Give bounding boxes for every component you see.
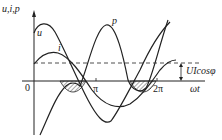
y-axis-label: u,i,p <box>2 4 20 14</box>
arrow-down-icon <box>179 77 183 81</box>
power-waveform-diagram: u,i,p u i p 0 π 2π UIcosφ ωt <box>0 0 222 140</box>
curve-label-p: p <box>112 16 117 26</box>
curve-label-u: u <box>37 28 42 38</box>
arrow-up-icon <box>179 63 183 67</box>
curve-u <box>34 22 170 122</box>
tick-label-2pi: 2π <box>153 84 163 94</box>
tick-label-pi: π <box>93 84 98 94</box>
y-axis-arrow-icon <box>32 10 36 17</box>
x-axis-label: ωt <box>190 84 200 94</box>
origin-label: 0 <box>25 83 30 93</box>
curve-p <box>40 20 168 135</box>
curve-i <box>34 52 176 106</box>
curve-label-i: i <box>58 43 61 53</box>
annotation-uicosphi: UIcosφ <box>186 66 215 76</box>
